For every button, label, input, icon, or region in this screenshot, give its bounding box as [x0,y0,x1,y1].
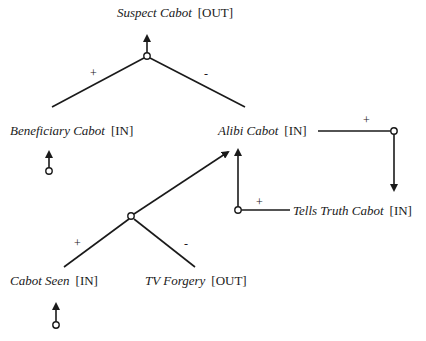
node-status: [IN] [76,273,98,288]
justification-node [144,53,150,59]
justification-node [391,128,397,134]
node-tv-forgery: TV Forgery[OUT] [145,274,247,288]
node-name: Suspect Cabot [117,5,192,20]
node-cabot-seen: Cabot Seen[IN] [10,274,98,288]
plus-sign: + [90,67,97,79]
premise-node [53,322,59,328]
node-name: Tells Truth Cabot [293,203,384,218]
arrow-to-alibi [134,152,228,214]
node-name: Alibi Cabot [218,123,278,138]
node-status: [OUT] [198,5,233,20]
node-tells-truth-cabot: Tells Truth Cabot[IN] [293,204,412,218]
node-name: Beneficiary Cabot [10,123,105,138]
node-status: [IN] [284,123,306,138]
node-status: [OUT] [211,273,246,288]
node-alibi-cabot: Alibi Cabot[IN] [218,124,307,138]
edge-alibi [150,58,245,107]
plus-sign: + [363,114,370,126]
node-name: Cabot Seen [10,273,70,288]
node-status: [IN] [111,123,133,138]
node-status: [IN] [390,203,412,218]
minus-sign: - [184,238,188,250]
justification-node [235,207,241,213]
diagram-edges [0,0,426,341]
justification-node [128,213,134,219]
plus-sign: + [256,196,263,208]
node-name: TV Forgery [145,273,205,288]
minus-sign: - [204,68,208,80]
plus-sign: + [74,237,81,249]
premise-node [46,168,52,174]
node-suspect-cabot: Suspect Cabot[OUT] [117,6,233,20]
node-beneficiary-cabot: Beneficiary Cabot[IN] [10,124,133,138]
edge-beneficiary [52,58,144,107]
